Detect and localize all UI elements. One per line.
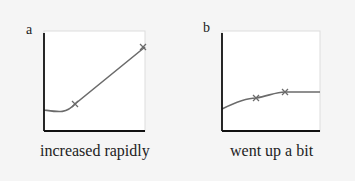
panel-a-caption: increased rapidly [40, 142, 150, 160]
panel-b-graph [222, 31, 320, 131]
panel-a-graph [44, 31, 146, 131]
panel-b-caption: went up a bit [230, 142, 313, 160]
